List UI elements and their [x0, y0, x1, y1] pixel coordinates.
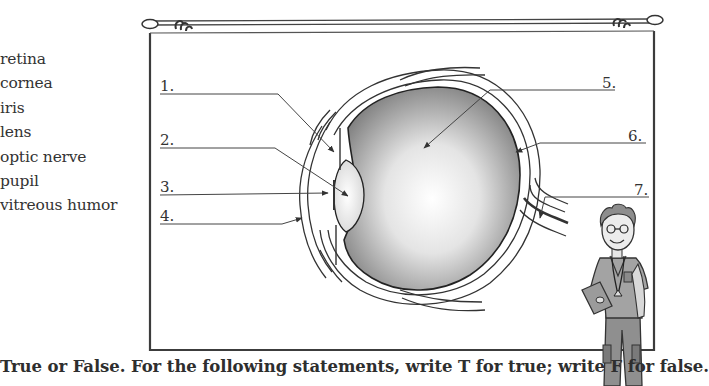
hanging-rod	[142, 16, 663, 32]
eye-cross-section	[300, 68, 568, 311]
instructions-heading: True or False. For the following stateme…	[0, 357, 709, 376]
rod-clip-left	[176, 21, 192, 31]
diagram-label-1: 1.	[160, 77, 174, 95]
diagram-label-5: 5.	[602, 74, 616, 92]
diagram-label-4: 4.	[160, 207, 174, 225]
diagram-label-3: 3.	[160, 178, 174, 196]
diagram-label-7: 7.	[634, 181, 648, 199]
diagram-label-6: 6.	[628, 127, 642, 145]
vitreous-humor-region	[344, 87, 520, 290]
diagram-label-2: 2.	[160, 131, 174, 149]
